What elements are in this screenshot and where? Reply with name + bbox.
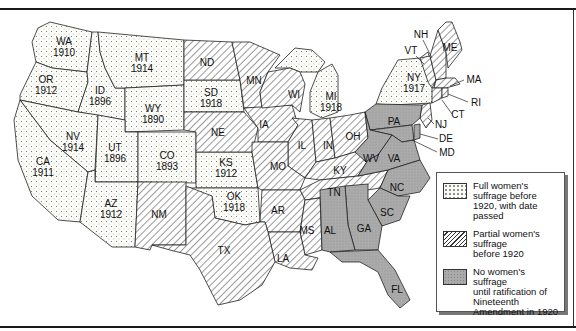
svg-text:MO: MO bbox=[270, 161, 286, 172]
svg-text:WI: WI bbox=[288, 89, 300, 100]
svg-text:KY: KY bbox=[333, 165, 347, 176]
svg-text:1914: 1914 bbox=[131, 63, 154, 74]
svg-text:UT: UT bbox=[108, 142, 121, 153]
svg-text:AZ: AZ bbox=[105, 198, 118, 209]
map-legend: Full women's suffrage before 1920, with … bbox=[436, 172, 565, 312]
svg-text:NY: NY bbox=[407, 72, 421, 83]
legend-item-full: Full women's suffrage before 1920, with … bbox=[443, 181, 561, 221]
svg-text:CT: CT bbox=[451, 109, 464, 120]
svg-text:1912: 1912 bbox=[215, 168, 238, 179]
svg-text:1911: 1911 bbox=[32, 167, 54, 178]
svg-text:1890: 1890 bbox=[142, 114, 165, 125]
svg-text:1910: 1910 bbox=[53, 47, 76, 58]
svg-text:MI: MI bbox=[325, 91, 336, 102]
state-MI-upper bbox=[275, 48, 325, 72]
state-CT bbox=[432, 88, 442, 103]
svg-text:1918: 1918 bbox=[223, 202, 246, 213]
svg-text:1918: 1918 bbox=[320, 102, 343, 113]
svg-text:AR: AR bbox=[271, 205, 285, 216]
svg-text:FL: FL bbox=[391, 284, 403, 295]
svg-text:NM: NM bbox=[151, 209, 167, 220]
svg-text:VT: VT bbox=[405, 45, 418, 56]
svg-text:AL: AL bbox=[324, 225, 337, 236]
svg-text:MS: MS bbox=[300, 225, 315, 236]
svg-text:TX: TX bbox=[218, 245, 231, 256]
svg-text:1896: 1896 bbox=[104, 153, 127, 164]
svg-text:ND: ND bbox=[200, 57, 214, 68]
svg-text:MN: MN bbox=[246, 75, 262, 86]
svg-text:MA: MA bbox=[467, 74, 482, 85]
svg-text:CA: CA bbox=[36, 156, 50, 167]
state-RI bbox=[442, 88, 448, 98]
hatched-swatch-icon bbox=[443, 231, 467, 247]
svg-text:NV: NV bbox=[66, 131, 80, 142]
state-DE bbox=[414, 124, 420, 140]
svg-text:WY: WY bbox=[145, 103, 161, 114]
svg-text:OR: OR bbox=[39, 74, 54, 85]
state-MA bbox=[434, 78, 460, 88]
svg-text:NC: NC bbox=[390, 182, 404, 193]
svg-text:1912: 1912 bbox=[100, 209, 123, 220]
svg-text:NE: NE bbox=[211, 127, 225, 138]
svg-text:NJ: NJ bbox=[435, 119, 447, 130]
svg-text:ME: ME bbox=[443, 42, 458, 53]
svg-text:1914: 1914 bbox=[62, 142, 85, 153]
svg-text:1896: 1896 bbox=[89, 96, 112, 107]
gray-swatch-icon bbox=[443, 269, 467, 285]
svg-text:IL: IL bbox=[298, 140, 307, 151]
svg-text:WA: WA bbox=[56, 36, 72, 47]
svg-text:1912: 1912 bbox=[35, 85, 58, 96]
svg-text:WV: WV bbox=[363, 153, 379, 164]
state-FL bbox=[330, 250, 410, 308]
svg-text:LA: LA bbox=[277, 253, 290, 264]
svg-text:SC: SC bbox=[380, 207, 394, 218]
svg-text:DE: DE bbox=[439, 133, 453, 144]
svg-text:PA: PA bbox=[388, 116, 401, 127]
svg-text:GA: GA bbox=[357, 223, 372, 234]
dotted-swatch-icon bbox=[443, 183, 467, 199]
svg-text:SD: SD bbox=[204, 87, 218, 98]
svg-text:OH: OH bbox=[346, 131, 361, 142]
svg-text:MT: MT bbox=[135, 52, 149, 63]
svg-text:OK: OK bbox=[227, 191, 242, 202]
svg-text:IA: IA bbox=[259, 119, 269, 130]
svg-text:KS: KS bbox=[219, 157, 233, 168]
legend-item-none: No women's suffrage until ratification o… bbox=[443, 267, 561, 317]
svg-text:CO: CO bbox=[160, 150, 175, 161]
svg-text:IN: IN bbox=[323, 140, 333, 151]
svg-text:VA: VA bbox=[388, 153, 401, 164]
svg-text:ID: ID bbox=[95, 85, 105, 96]
svg-text:TN: TN bbox=[327, 187, 340, 198]
svg-text:1893: 1893 bbox=[156, 161, 179, 172]
legend-item-partial: Partial women's suffrage before 1920 bbox=[443, 229, 561, 259]
svg-text:1917: 1917 bbox=[403, 83, 426, 94]
svg-text:NH: NH bbox=[414, 29, 428, 40]
svg-text:RI: RI bbox=[471, 97, 481, 108]
svg-text:1918: 1918 bbox=[200, 98, 223, 109]
svg-text:MD: MD bbox=[439, 147, 455, 158]
